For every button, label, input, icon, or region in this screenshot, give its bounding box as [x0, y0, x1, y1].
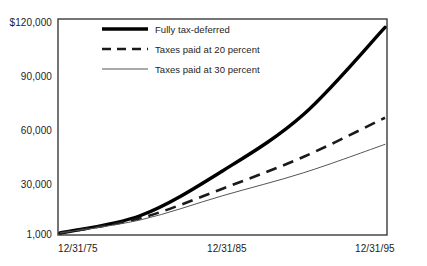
plot-frame	[58, 19, 387, 235]
chart-plot-area	[0, 0, 427, 266]
series-line-taxes-20-percent	[60, 118, 385, 233]
series-line-fully-tax-deferred	[60, 27, 385, 233]
chart-container: $120,000 90,000 60,000 30,000 1,000 12/3…	[0, 0, 427, 266]
